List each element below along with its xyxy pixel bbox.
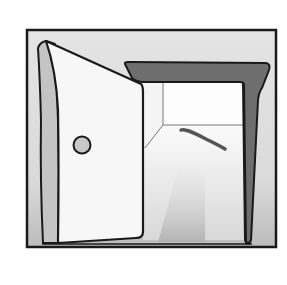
open-door-illustration	[0, 0, 287, 285]
doorknob	[74, 137, 91, 154]
room-interior	[143, 83, 247, 242]
door-graphic	[0, 0, 287, 285]
